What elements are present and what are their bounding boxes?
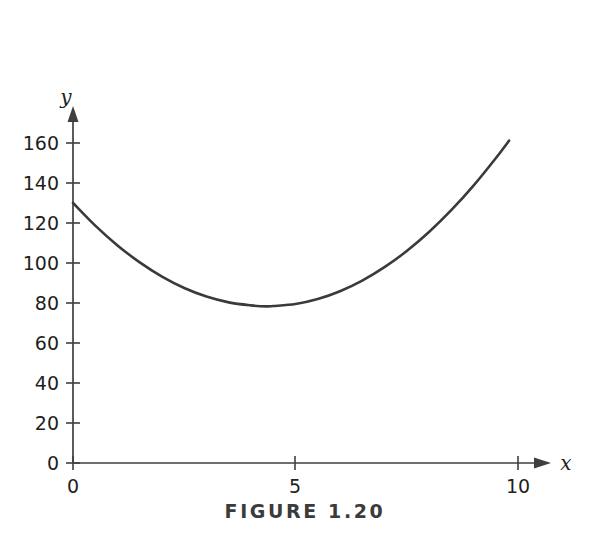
y-tick-label-40: 40 bbox=[35, 372, 59, 394]
chart-plot-area: 0 20 40 60 80 100 120 140 160 0 5 10 y x bbox=[0, 0, 610, 510]
y-tick-label-100: 100 bbox=[23, 252, 59, 274]
y-tick-label-0: 0 bbox=[47, 452, 59, 474]
data-curve bbox=[73, 141, 509, 307]
y-tick-label-20: 20 bbox=[35, 412, 59, 434]
x-axis-arrowhead bbox=[534, 458, 551, 469]
x-tick-label-10: 10 bbox=[506, 475, 530, 497]
y-tick-label-140: 140 bbox=[23, 172, 59, 194]
x-tick-label-5: 5 bbox=[289, 475, 301, 497]
y-tick-label-120: 120 bbox=[23, 212, 59, 234]
figure-caption: FIGURE 1.20 bbox=[0, 500, 610, 522]
y-tick-label-60: 60 bbox=[35, 332, 59, 354]
x-axis-label: x bbox=[560, 451, 571, 475]
y-axis-label: y bbox=[59, 85, 72, 109]
y-tick-label-80: 80 bbox=[35, 292, 59, 314]
y-tick-label-160: 160 bbox=[23, 132, 59, 154]
x-tick-label-0: 0 bbox=[67, 475, 79, 497]
figure-container: 0 20 40 60 80 100 120 140 160 0 5 10 y x… bbox=[0, 0, 610, 552]
